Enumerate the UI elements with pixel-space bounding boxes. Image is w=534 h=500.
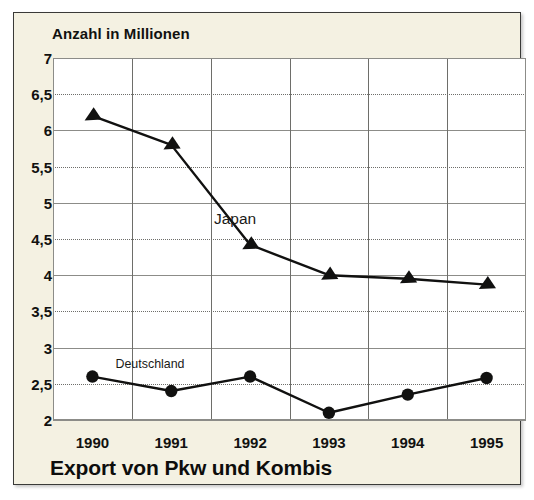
data-point-circle bbox=[165, 385, 177, 397]
chart-figure: Anzahl in Millionen 76,565,554,543,532,5… bbox=[13, 12, 521, 485]
data-point-circle bbox=[244, 370, 256, 382]
data-point-circle bbox=[86, 370, 98, 382]
x-tick-label-1995: 1995 bbox=[470, 434, 503, 451]
gridline-horizontal-2 bbox=[53, 420, 526, 421]
data-point-triangle bbox=[400, 270, 417, 283]
y-tick-label: 5 bbox=[12, 194, 52, 211]
series-label-japan: Japan bbox=[214, 210, 256, 228]
series-japan bbox=[85, 107, 496, 289]
series-line bbox=[92, 377, 486, 413]
y-tick-label: 4 bbox=[12, 267, 52, 284]
y-tick-label: 2 bbox=[12, 412, 52, 429]
y-tick-label: 2,5 bbox=[12, 375, 52, 392]
series-label-deutschland: Deutschland bbox=[115, 355, 184, 370]
data-point-triangle bbox=[479, 276, 496, 289]
x-tick-label-1993: 1993 bbox=[312, 434, 345, 451]
x-tick-label-1992: 1992 bbox=[233, 434, 266, 451]
y-axis-title: Anzahl in Millionen bbox=[52, 25, 190, 42]
x-axis-tick-labels: 199019911992199319941995 bbox=[53, 434, 526, 458]
y-tick-label: 3 bbox=[12, 339, 52, 356]
y-axis-tick-labels: 76,565,554,543,532,52 bbox=[12, 58, 52, 420]
y-tick-label: 3,5 bbox=[12, 303, 52, 320]
data-point-circle bbox=[402, 388, 414, 400]
x-tick-label-1991: 1991 bbox=[155, 434, 188, 451]
chart-title: Export von Pkw und Kombis bbox=[50, 456, 332, 480]
y-tick-label: 4,5 bbox=[12, 231, 52, 248]
y-tick-label: 6 bbox=[12, 122, 52, 139]
data-point-circle bbox=[480, 372, 492, 384]
series-line bbox=[92, 116, 486, 285]
y-tick-label: 6,5 bbox=[12, 86, 52, 103]
data-point-triangle bbox=[85, 107, 102, 120]
x-tick-label-1994: 1994 bbox=[391, 434, 424, 451]
x-tick-label-1990: 1990 bbox=[76, 434, 109, 451]
plot-area: JapanDeutschland bbox=[53, 58, 526, 420]
data-point-circle bbox=[323, 407, 335, 419]
y-tick-label: 5,5 bbox=[12, 158, 52, 175]
series-deutschland bbox=[86, 370, 493, 419]
y-tick-label: 7 bbox=[12, 50, 52, 67]
